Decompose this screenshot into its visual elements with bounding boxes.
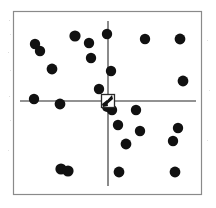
data-point [175,34,186,45]
data-point [113,120,123,130]
data-point [114,167,125,178]
data-point [62,165,73,176]
data-point [69,30,80,41]
scatter-plot-figure [0,0,216,208]
data-point [84,38,94,48]
data-point [94,84,104,94]
data-point [170,167,181,178]
origin-square-marker [102,95,115,108]
data-point [86,53,96,63]
data-point [47,64,58,75]
data-point [178,76,189,87]
data-point [168,136,178,146]
data-point [35,46,45,56]
data-point [121,139,132,150]
data-point [29,94,39,104]
plot-canvas [0,0,216,208]
data-point [135,126,145,136]
data-point [173,123,183,133]
data-point [102,29,112,39]
data-point [131,105,141,115]
data-point [106,66,116,76]
data-point [55,99,66,110]
data-point [140,34,150,44]
